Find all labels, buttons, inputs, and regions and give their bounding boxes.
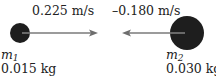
mass-value-2: 0.030 kg (166, 62, 216, 76)
velocity-label-2: –0.180 m/s (112, 4, 181, 18)
mass-symbol-1: m (1, 47, 13, 62)
velocity-arrow-1 (20, 30, 98, 37)
collision-diagram: 0.225 m/s –0.180 m/s m1 0.015 kg m2 0.03… (0, 0, 216, 79)
mass-symbol-2: m (166, 47, 178, 62)
velocity-label-1: 0.225 m/s (32, 4, 94, 18)
mass-value-1: 0.015 kg (1, 62, 56, 76)
